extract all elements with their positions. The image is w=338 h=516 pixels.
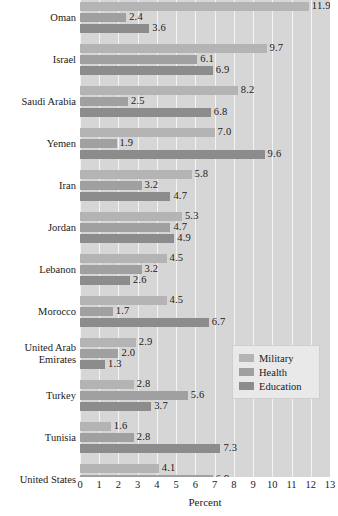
bar-military — [80, 464, 159, 473]
bar-health — [80, 307, 113, 316]
bar-row: 6.8 — [80, 108, 330, 117]
bar-health — [80, 433, 134, 442]
bar-value-label: 3.7 — [154, 399, 168, 412]
bar-row: 2.5 — [80, 97, 330, 106]
bar-row: 1.6 — [80, 422, 330, 431]
bar-value-label: 4.5 — [170, 251, 184, 264]
category-label: United Arab Emirates — [0, 342, 76, 365]
bar-row: 2.6 — [80, 276, 330, 285]
bar-row: 6.1 — [80, 55, 330, 64]
bar-value-label: 6.1 — [200, 52, 214, 65]
legend-label-military: Military — [259, 352, 293, 365]
x-tick-label: 12 — [306, 478, 317, 491]
bar-row: 5.8 — [80, 170, 330, 179]
bar-health — [80, 391, 188, 400]
bar-value-label: 9.7 — [270, 41, 284, 54]
bar-row: 7.0 — [80, 128, 330, 137]
legend-item-military: Military — [239, 351, 314, 365]
x-axis-ticks: 012345678910111213 — [80, 477, 330, 495]
bar-military — [80, 380, 134, 389]
bar-value-label: 8.2 — [241, 83, 255, 96]
bar-row: 1.7 — [80, 307, 330, 316]
bar-education — [80, 444, 220, 453]
bar-value-label: 5.8 — [195, 167, 209, 180]
bar-row: 5.3 — [80, 212, 330, 221]
bar-education — [80, 402, 151, 411]
bar-group: 4.51.76.7 — [80, 296, 330, 338]
bar-military — [80, 44, 267, 53]
bar-value-label: 1.9 — [120, 136, 134, 149]
legend-item-health: Health — [239, 365, 314, 379]
bar-military — [80, 422, 111, 431]
category-label: United States — [0, 474, 76, 486]
bar-value-label: 4.1 — [162, 461, 176, 474]
x-tick-label: 2 — [116, 478, 121, 491]
bar-value-label: 1.7 — [116, 304, 130, 317]
bar-row: 2.8 — [80, 433, 330, 442]
bar-military — [80, 2, 309, 11]
bar-health — [80, 181, 142, 190]
bar-value-label: 7.0 — [218, 125, 232, 138]
bar-row: 6.9 — [80, 66, 330, 75]
bar-group: 4.16.95.9 — [80, 464, 330, 477]
bar-value-label: 3.2 — [145, 178, 159, 191]
bar-row: 1.9 — [80, 139, 330, 148]
bar-group: 4.53.22.6 — [80, 254, 330, 296]
category-label: Iran — [0, 180, 76, 192]
bar-military — [80, 86, 238, 95]
bar-military — [80, 170, 192, 179]
bar-value-label: 6.9 — [216, 63, 230, 76]
category-label: Tunisia — [0, 432, 76, 444]
x-tick-label: 10 — [267, 478, 278, 491]
category-label: Turkey — [0, 390, 76, 402]
bar-value-label: 2.8 — [137, 430, 151, 443]
bar-row: 4.9 — [80, 234, 330, 243]
bar-row: 2.4 — [80, 13, 330, 22]
x-tick-label: 4 — [154, 478, 159, 491]
bar-group: 7.01.99.6 — [80, 128, 330, 170]
bar-row: 3.2 — [80, 181, 330, 190]
bar-education — [80, 276, 130, 285]
bar-education — [80, 360, 105, 369]
x-tick-label: 1 — [97, 478, 102, 491]
bar-row: 3.2 — [80, 265, 330, 274]
bar-value-label: 3.6 — [152, 21, 166, 34]
legend-label-health: Health — [259, 366, 287, 379]
bar-row: 9.6 — [80, 150, 330, 159]
bar-value-label: 11.9 — [312, 0, 330, 12]
bar-value-label: 4.5 — [170, 293, 184, 306]
x-tick-label: 0 — [77, 478, 82, 491]
bar-value-label: 1.6 — [114, 419, 128, 432]
category-label: Morocco — [0, 306, 76, 318]
category-label: Lebanon — [0, 264, 76, 276]
bar-education — [80, 192, 170, 201]
bar-row: 11.9 — [80, 2, 330, 11]
bar-military — [80, 212, 182, 221]
bar-group: 11.92.43.6 — [80, 2, 330, 44]
bar-row: 4.5 — [80, 254, 330, 263]
category-label: Oman — [0, 12, 76, 24]
legend-swatch-health-icon — [239, 368, 254, 376]
bar-value-label: 2.6 — [133, 273, 147, 286]
category-label: Yemen — [0, 138, 76, 150]
bar-row: 3.7 — [80, 402, 330, 411]
x-tick-label: 5 — [174, 478, 179, 491]
bar-row: 4.1 — [80, 464, 330, 473]
bar-value-label: 5.6 — [191, 388, 205, 401]
bar-health — [80, 139, 117, 148]
bar-military — [80, 128, 215, 137]
bar-education — [80, 234, 174, 243]
legend-item-education: Education — [239, 379, 314, 393]
bar-value-label: 7.3 — [223, 441, 237, 454]
bar-value-label: 6.7 — [212, 315, 226, 328]
bar-value-label: 4.7 — [173, 189, 187, 202]
bar-health — [80, 13, 126, 22]
chart-legend: Military Health Education — [232, 345, 320, 399]
bar-row: 4.7 — [80, 192, 330, 201]
bar-row: 8.2 — [80, 86, 330, 95]
bar-value-label: 2.9 — [139, 335, 153, 348]
bar-row: 3.6 — [80, 24, 330, 33]
bar-health — [80, 97, 128, 106]
bar-group: 5.34.74.9 — [80, 212, 330, 254]
plot-area: 11.92.43.69.76.16.98.22.56.87.01.99.65.8… — [80, 0, 330, 477]
